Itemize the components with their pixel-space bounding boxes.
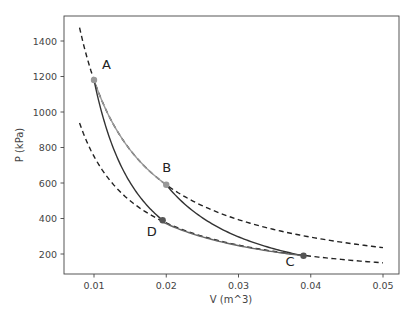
chart-svg: ABCD 0.010.020.030.040.05 20040060080010… bbox=[0, 0, 415, 323]
y-tick-label: 600 bbox=[39, 178, 57, 189]
y-tick-label: 1200 bbox=[33, 71, 57, 82]
point-C-label: C bbox=[286, 254, 295, 269]
plot-frame bbox=[64, 16, 399, 274]
y-tick-label: 1400 bbox=[33, 36, 57, 47]
x-tick-label: 0.01 bbox=[83, 280, 104, 291]
x-tick-label: 0.03 bbox=[228, 280, 249, 291]
point-A-marker bbox=[91, 77, 97, 83]
x-tick-label: 0.02 bbox=[156, 280, 177, 291]
y-tick-label: 200 bbox=[39, 249, 57, 260]
y-axis-ticks: 200400600800100012001400 bbox=[33, 36, 64, 260]
curve-A-B bbox=[94, 80, 166, 185]
point-D-marker bbox=[159, 217, 165, 223]
plot-curves bbox=[80, 28, 383, 263]
point-A-label: A bbox=[102, 57, 111, 72]
y-tick-label: 400 bbox=[39, 213, 57, 224]
state-point-labels: ABCD bbox=[102, 57, 295, 269]
y-axis-label: P (kPa) bbox=[14, 128, 25, 163]
point-B-label: B bbox=[162, 160, 171, 175]
x-tick-label: 0.04 bbox=[300, 280, 321, 291]
y-tick-label: 800 bbox=[39, 142, 57, 153]
curve-D-A bbox=[94, 80, 163, 220]
point-C-marker bbox=[300, 253, 306, 259]
pv-diagram-chart: ABCD 0.010.020.030.040.05 20040060080010… bbox=[0, 0, 415, 323]
curve-isotherm-hot bbox=[80, 28, 383, 248]
x-axis-ticks: 0.010.020.030.040.05 bbox=[83, 274, 393, 291]
x-tick-label: 0.05 bbox=[372, 280, 393, 291]
x-axis-label: V (m^3) bbox=[210, 294, 252, 305]
state-point-markers bbox=[91, 77, 307, 259]
point-D-label: D bbox=[147, 224, 157, 239]
point-B-marker bbox=[163, 182, 169, 188]
y-tick-label: 1000 bbox=[33, 107, 57, 118]
